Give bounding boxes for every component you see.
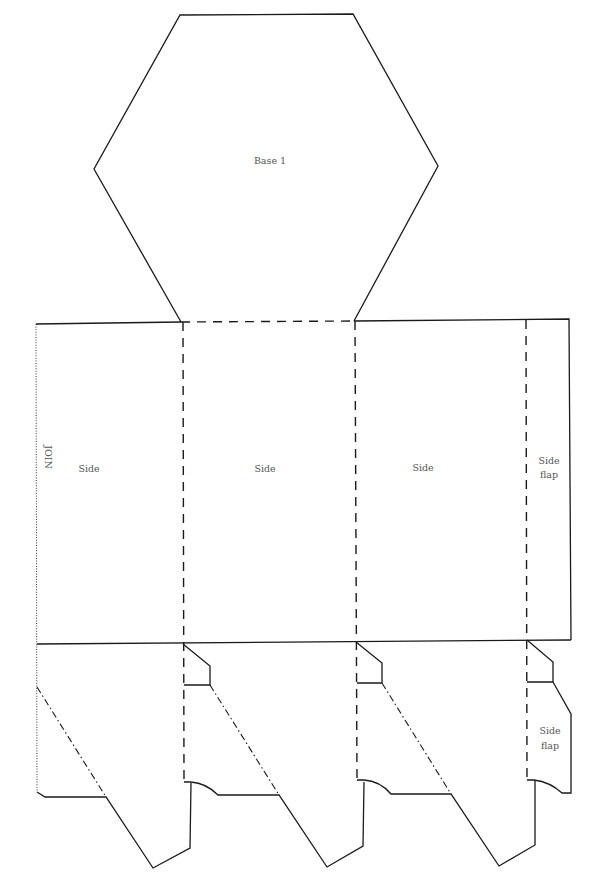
- join-label: JOIN: [43, 444, 54, 469]
- tab-3-outline: [357, 780, 535, 866]
- tab-2-glue-line: [210, 685, 279, 795]
- side-flap-label-bottom-1: Side: [539, 725, 561, 736]
- tab-1-outline: [37, 783, 191, 868]
- hexagon-outline: [94, 14, 438, 322]
- side-top-edge-left: [36, 322, 181, 324]
- side-label-3: Side: [412, 462, 434, 473]
- fold-line-1: [183, 322, 184, 782]
- bottom-tab-3: [357, 640, 553, 866]
- fold-line-2: [355, 321, 357, 780]
- tab-1-glue-line: [37, 687, 106, 797]
- bottom-tab-2: [184, 642, 382, 867]
- fold-line-3: [526, 320, 527, 780]
- side-bottom-edge: [37, 640, 571, 644]
- join-edge: [36, 324, 37, 792]
- bottom-side-flap: Side flap: [527, 682, 571, 793]
- tab-1-notch: [183, 644, 210, 685]
- hexagon-base: Base 1: [94, 14, 438, 322]
- side-flap-label-top-2: flap: [540, 469, 558, 480]
- side-band: JOIN Side Side Side Side flap: [36, 319, 571, 792]
- base-label: Base 1: [254, 155, 286, 166]
- side-top-right-edge: [354, 319, 571, 640]
- box-net-diagram: Base 1 JOIN Side Side Side Side flap: [0, 0, 606, 882]
- side-flap-bottom-outline: [527, 682, 571, 793]
- side-flap-label-top-1: Side: [538, 455, 560, 466]
- tab-3-glue-line: [382, 683, 451, 794]
- tab-3-notch: [527, 640, 553, 682]
- side-label-1: Side: [78, 463, 100, 474]
- side-label-2: Side: [254, 463, 276, 474]
- tab-2-notch: [356, 642, 382, 683]
- tab-2-outline: [184, 782, 364, 867]
- side-flap-label-bottom-2: flap: [541, 740, 559, 751]
- base-fold-line: [181, 321, 354, 322]
